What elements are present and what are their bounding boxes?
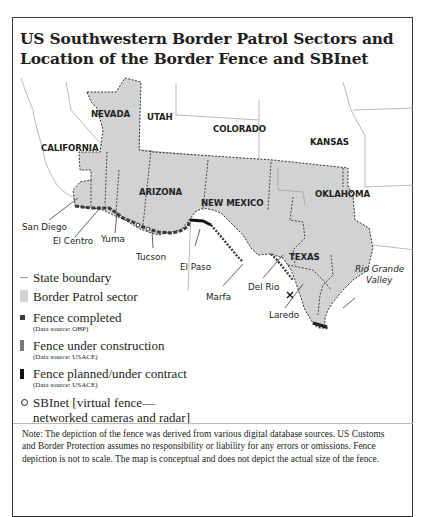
sector-swatch (20, 290, 28, 302)
sbinet-marker (136, 223, 140, 227)
legend-label: State boundary (33, 270, 111, 285)
sector-label-san-diego: San Diego (22, 222, 67, 232)
state-label-kansas: KANSAS (310, 137, 349, 147)
sector-label-tucson: Tucson (135, 252, 166, 262)
legend: State boundary Border Patrol sector Fenc… (20, 270, 260, 425)
state-label-new-mexico: NEW MEXICO (201, 198, 263, 208)
legend-source: (Data source: USACE) (33, 381, 260, 390)
legend-label: Fence under construction (33, 338, 164, 353)
legend-label: Fence planned/under contract (33, 366, 187, 381)
sbinet-marker (146, 227, 150, 231)
sector-label-laredo: Laredo (269, 310, 299, 320)
legend-source: (Data source: OBP) (33, 325, 260, 334)
state-label-nevada: NEVADA (91, 109, 130, 119)
legend-item-fence-under-construction: Fence under construction (Data source: U… (20, 338, 260, 362)
state-label-utah: UTAH (147, 112, 173, 122)
legend-item-border-patrol-sector: Border Patrol sector (20, 289, 260, 304)
state-label-oklahoma: OKLAHOMA (315, 189, 370, 199)
sector-label-el-centro: El Centro (53, 236, 93, 246)
sbinet-circle-icon (21, 399, 28, 406)
legend-label: Border Patrol sector (33, 289, 138, 304)
legend-item-fence-planned: Fence planned/under contract (Data sourc… (20, 366, 260, 390)
legend-item-fence-completed: Fence completed (Data source: OBP) (20, 310, 260, 334)
disclaimer-note: Note: The depiction of the fence was der… (22, 428, 397, 465)
legend-label: Fence completed (33, 310, 121, 325)
state-label-texas: TEXAS (289, 252, 320, 262)
fence-completed-swatch (20, 315, 25, 320)
legend-label: SBInet [virtual fence— (33, 395, 155, 410)
legend-item-sbinet: SBInet [virtual fence— networked cameras… (20, 395, 260, 425)
state-label-colorado: COLORADO (213, 124, 266, 134)
fence-construction-swatch (20, 340, 24, 351)
sector-label-rio-grande-valley-line2: Valley (366, 275, 393, 285)
legend-source: (Data source: USACE) (33, 353, 260, 362)
map-title: US Southwestern Border Patrol Sectors an… (20, 29, 400, 69)
note-separator (13, 423, 413, 424)
legend-item-state-boundary: State boundary (20, 270, 260, 285)
state-label-arizona: ARIZONA (139, 187, 183, 197)
state-label-california: CALIFORNIA (41, 143, 99, 153)
fence-planned-swatch (20, 369, 24, 379)
state-boundary-swatch (20, 277, 28, 278)
sector-label-rio-grande-valley: Rio Grande (355, 264, 405, 274)
sector-label-yuma: Yuma (100, 234, 125, 244)
